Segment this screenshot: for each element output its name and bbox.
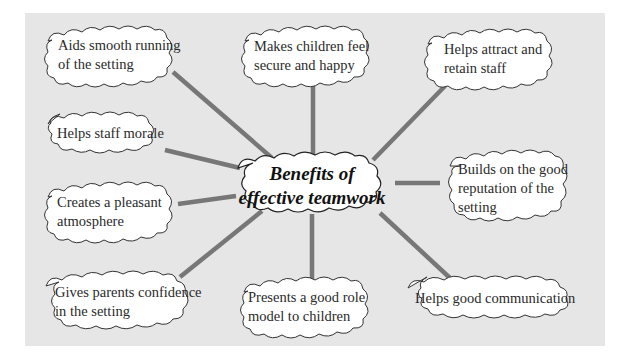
node-label-line2: retain staff [444,59,542,78]
node-label-line2: secure and happy [254,56,369,75]
node-label-line2: reputation of the [458,179,568,198]
node-label-line3: setting [458,198,568,217]
node-good-communication: Helps good communication [400,276,590,324]
node-label-line1: Presents a good role [248,288,365,307]
node-label-line1: Aids smooth running [58,36,180,55]
node-label-line2: of the setting [58,55,180,74]
connector-attract-retain-staff [373,86,445,160]
center-title-line2: effective teamwork [226,186,398,210]
node-attract-retain-staff: Helps attract and retain staff [420,30,565,88]
node-staff-morale: Helps staff morale [40,112,180,157]
node-label-line2: in the setting [55,302,202,321]
node-label-line1: Helps attract and [444,40,542,59]
node-label-line2: model to children [248,307,365,326]
node-aids-smooth-running: Aids smooth running of the setting [40,27,190,82]
node-label-line1: Creates a pleasant [57,193,162,212]
node-label-line1: Makes children feel [254,37,369,56]
center-title-line1: Benefits of [226,162,398,186]
node-good-reputation: Builds on the good reputation of the set… [440,150,585,226]
connector-parents-confidence [180,211,262,277]
node-makes-children-secure: Makes children feel secure and happy [237,27,385,85]
node-label-line2: atmosphere [57,212,162,231]
node-label-line1: Builds on the good [458,160,568,179]
center-node-benefits: Benefits of effective teamwork [226,152,398,220]
node-parents-confidence: Gives parents confidence in the setting [38,272,213,332]
node-label-line1: Gives parents confidence [55,283,202,302]
node-pleasant-atmosphere: Creates a pleasant atmosphere [40,183,180,241]
node-label-line1: Helps good communication [415,289,575,308]
node-role-model: Presents a good role model to children [236,278,384,336]
node-label-line1: Helps staff morale [57,124,164,143]
